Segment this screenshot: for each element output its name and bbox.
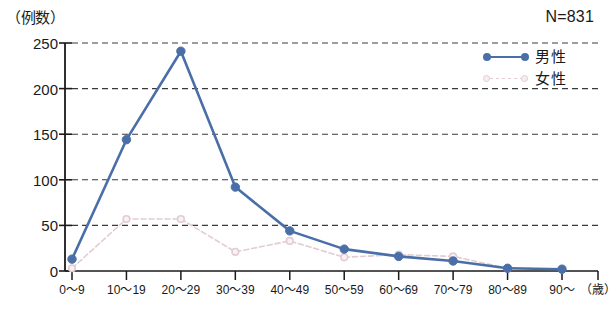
chart-legend: 男性 女性 bbox=[484, 48, 566, 87]
datapoint-male-4 bbox=[286, 227, 294, 235]
series-line-female bbox=[72, 219, 562, 269]
x-tick-0: 0〜9 bbox=[59, 284, 84, 296]
datapoint-male-6 bbox=[394, 252, 402, 260]
y-tick-250: 250 bbox=[33, 36, 58, 51]
legend-marker-male-right bbox=[521, 53, 529, 61]
x-axis-unit-label: （歳） bbox=[580, 284, 610, 296]
legend-marker-male-left bbox=[483, 53, 491, 61]
x-tick-3: 30〜39 bbox=[216, 284, 255, 296]
legend-item-female: 女性 bbox=[484, 70, 566, 87]
datapoint-male-2 bbox=[177, 47, 185, 55]
x-tick-9: 90〜 bbox=[549, 284, 574, 296]
legend-label-female: 女性 bbox=[535, 71, 566, 86]
legend-swatch-male bbox=[484, 51, 528, 63]
x-tick-6: 60〜69 bbox=[379, 284, 418, 296]
y-tick-100: 100 bbox=[33, 172, 58, 187]
series-female bbox=[69, 216, 566, 273]
x-tick-8: 80〜89 bbox=[488, 284, 527, 296]
x-tick-5: 50〜59 bbox=[325, 284, 364, 296]
x-tick-4: 40〜49 bbox=[270, 284, 309, 296]
y-tick-200: 200 bbox=[33, 81, 58, 96]
y-axis-tick-labels: 050100150200250 bbox=[0, 0, 58, 318]
x-tick-2: 20〜29 bbox=[162, 284, 201, 296]
datapoint-male-1 bbox=[122, 135, 130, 143]
datapoint-male-7 bbox=[449, 257, 457, 265]
datapoint-female-3 bbox=[232, 249, 239, 256]
datapoint-male-3 bbox=[231, 183, 239, 191]
datapoint-female-2 bbox=[178, 216, 185, 223]
datapoint-female-5 bbox=[341, 254, 348, 261]
legend-item-male: 男性 bbox=[484, 48, 566, 65]
datapoint-male-8 bbox=[503, 264, 511, 272]
datapoint-female-0 bbox=[69, 265, 76, 272]
legend-label-male: 男性 bbox=[535, 49, 566, 64]
y-tick-150: 150 bbox=[33, 127, 58, 142]
x-tick-7: 70〜79 bbox=[434, 284, 473, 296]
sample-size-annotation: N=831 bbox=[545, 8, 594, 26]
legend-marker-female-left bbox=[483, 75, 490, 82]
datapoint-female-4 bbox=[286, 238, 293, 245]
legend-marker-female-right bbox=[521, 75, 528, 82]
datapoint-female-1 bbox=[123, 216, 130, 223]
legend-swatch-female bbox=[484, 73, 528, 85]
x-tick-1: 10〜19 bbox=[107, 284, 146, 296]
datapoint-male-9 bbox=[558, 265, 566, 273]
y-tick-0: 0 bbox=[50, 264, 58, 279]
datapoint-male-0 bbox=[68, 255, 76, 263]
y-tick-50: 50 bbox=[41, 218, 58, 233]
datapoint-male-5 bbox=[340, 245, 348, 253]
chart-container: （例数） N=831 050100150200250 0〜910〜1920〜29… bbox=[0, 0, 610, 318]
